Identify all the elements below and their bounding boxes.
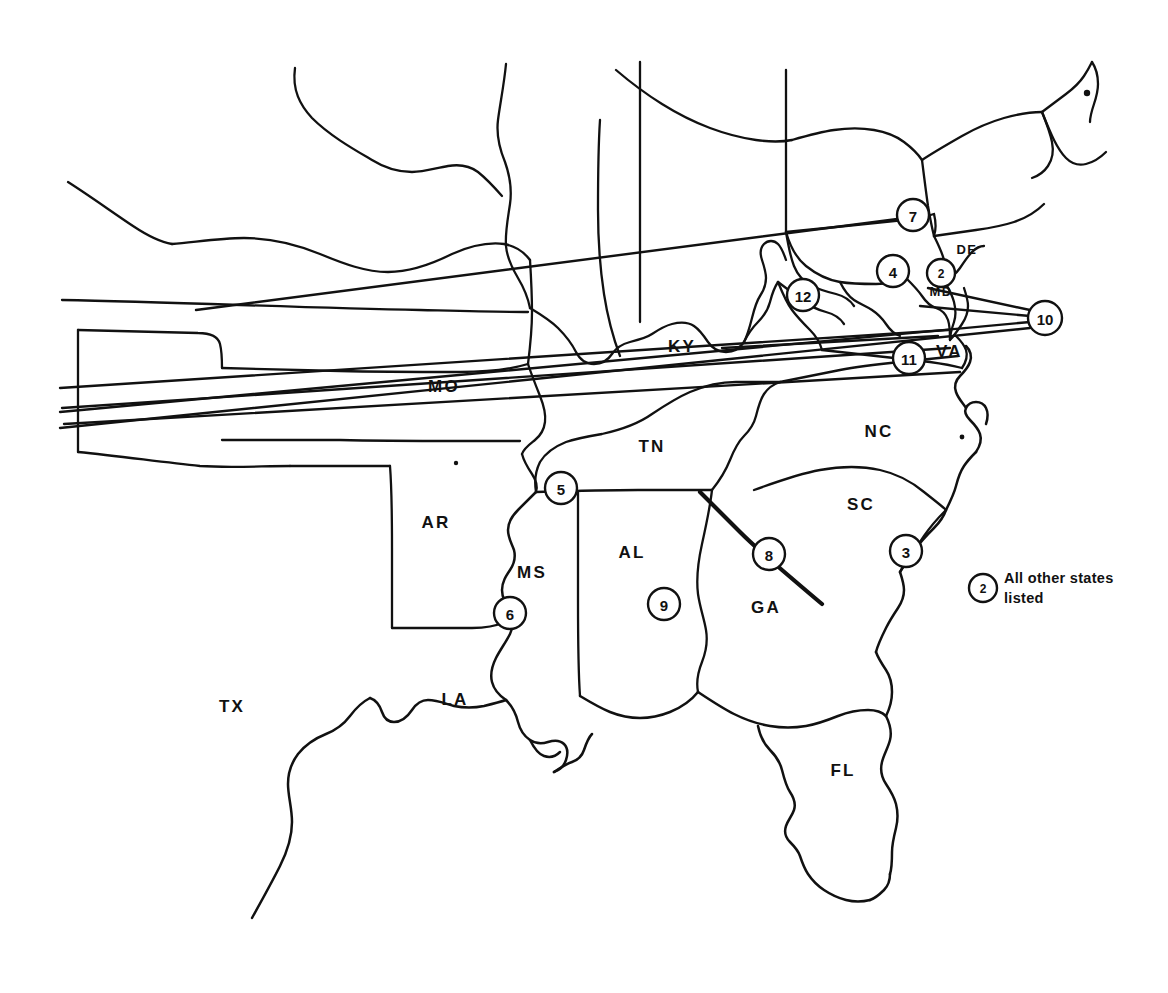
state-label-sc: SC [847, 495, 875, 514]
marker-11[interactable]: 11 [893, 342, 925, 374]
state-label-la: LA [441, 690, 468, 709]
border-maryland-potomac [840, 282, 900, 336]
marker-9-label: 9 [660, 597, 668, 614]
coastline-florida-panhandle [698, 692, 886, 728]
marker-12[interactable]: 12 [787, 279, 819, 311]
boundary-lines [62, 62, 1106, 918]
map-container: TX AR LA MS MO AL TN KY GA FL SC NC VA M… [0, 0, 1168, 993]
marker-6[interactable]: 6 [494, 597, 526, 629]
border-new-england-north [1042, 62, 1092, 112]
marker-9[interactable]: 9 [648, 588, 680, 620]
border-arkansas-oklahoma-nw [78, 452, 290, 467]
border-mississippi-river [491, 492, 536, 700]
state-label-ar: AR [422, 513, 451, 532]
marker-8[interactable]: 8 [753, 538, 785, 570]
border-new-york-north [922, 112, 1042, 160]
coastline-louisiana-delta [506, 700, 567, 772]
marker-2-dc[interactable]: 2 [927, 259, 955, 287]
state-labels-group: TX AR LA MS MO AL TN KY GA FL SC NC VA M… [219, 242, 977, 780]
border-mississippi-alabama [578, 492, 580, 696]
border-kentucky-wv [744, 282, 778, 342]
marker-11-label: 11 [901, 351, 917, 368]
legend-text-line1: All other states [1004, 570, 1114, 586]
border-illinois-indiana [598, 120, 620, 356]
border-nc-tennessee-mountains [712, 382, 780, 490]
coastline-florida-east [881, 716, 897, 874]
coastline-north-carolina [946, 452, 976, 510]
stray-dots-group [454, 90, 1090, 465]
coastline-gulf-texas-east [370, 698, 506, 722]
marker-7-label: 7 [909, 208, 917, 225]
marker-10-label: 10 [1037, 311, 1054, 328]
marker-2-dc-label: 2 [938, 267, 945, 281]
state-label-nc: NC [865, 422, 894, 441]
border-nebraska-kansas-top [172, 238, 530, 272]
marker-4-label: 4 [889, 264, 898, 281]
marker-5[interactable]: 5 [545, 472, 577, 504]
state-label-ms: MS [517, 563, 547, 582]
border-missouri-arkansas-line2 [222, 440, 520, 441]
state-label-tx: TX [219, 697, 245, 716]
border-new-england-east [1090, 62, 1098, 122]
border-west-virginia-west [744, 241, 786, 342]
border-lake-erie-ontario [792, 129, 922, 161]
marker-7[interactable]: 7 [897, 199, 929, 231]
numbered-markers-group: 12 7 4 2 10 11 [494, 199, 1062, 629]
marker-6-label: 6 [506, 606, 514, 623]
coastline-outer-banks [965, 402, 987, 452]
state-label-de: DE [957, 242, 978, 257]
border-oklahoma-north [78, 330, 222, 368]
border-arkansas-texas [392, 622, 504, 628]
coastline-gulf-texas [252, 698, 370, 918]
state-label-al: AL [618, 543, 645, 562]
border-great-lakes-north [616, 70, 792, 142]
border-massachusetts-coast [1032, 112, 1053, 178]
marker-8-label: 8 [765, 547, 773, 564]
border-alabama-georgia [697, 490, 712, 692]
coastline-georgia [876, 572, 904, 652]
coastline-florida-georgia [876, 652, 892, 716]
us-southeast-map-svg: TX AR LA MS MO AL TN KY GA FL SC NC VA M… [0, 0, 1168, 993]
legend: 2 All other states listed [969, 570, 1114, 606]
legend-text-line2: listed [1004, 590, 1044, 606]
coastline-mississippi-alabama-gulf [580, 692, 698, 718]
state-label-ky: KY [668, 337, 696, 356]
marker-3-label: 3 [902, 544, 910, 561]
border-upper-midwest-1 [294, 68, 502, 196]
stray-dot-3 [960, 435, 965, 440]
marker-10[interactable]: 10 [1028, 301, 1062, 335]
legend-marker-label: 2 [980, 582, 987, 596]
state-label-tn: TN [638, 437, 665, 456]
stray-dot-2 [454, 461, 458, 465]
marker-3[interactable]: 3 [890, 535, 922, 567]
marker-12-label: 12 [795, 288, 812, 305]
border-northwest-diagonal [68, 182, 172, 244]
state-label-fl: FL [830, 761, 855, 780]
border-connecticut-massachusetts [934, 204, 1044, 236]
border-ny-hudson [934, 214, 936, 236]
state-label-va: VA [936, 342, 963, 361]
border-kansas-south [62, 300, 528, 312]
stray-dot-1 [1084, 90, 1090, 96]
coastline-florida-tip [870, 874, 890, 900]
marker-5-label: 5 [557, 481, 565, 498]
state-label-mo: MO [428, 377, 460, 396]
border-arkansas-west [390, 466, 392, 628]
coastline-florida-west [758, 726, 870, 902]
state-label-ga: GA [751, 598, 781, 617]
marker-4[interactable]: 4 [877, 255, 909, 287]
